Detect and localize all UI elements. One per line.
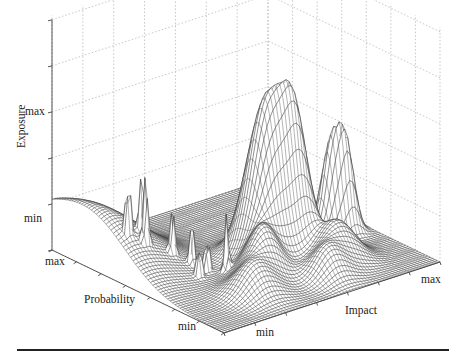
z-max-tick-label: max bbox=[25, 105, 45, 117]
x-max-tick-label: max bbox=[421, 273, 441, 285]
x-axis-label: Impact bbox=[345, 304, 377, 316]
y-axis-label: Probability bbox=[84, 293, 135, 305]
y-min-tick-label: min bbox=[178, 320, 196, 332]
surface-plot bbox=[0, 0, 464, 362]
bottom-rule bbox=[17, 349, 449, 351]
x-min-tick-label: min bbox=[256, 326, 274, 338]
y-max-tick-label: max bbox=[45, 255, 65, 267]
z-min-tick-label: min bbox=[24, 212, 42, 224]
